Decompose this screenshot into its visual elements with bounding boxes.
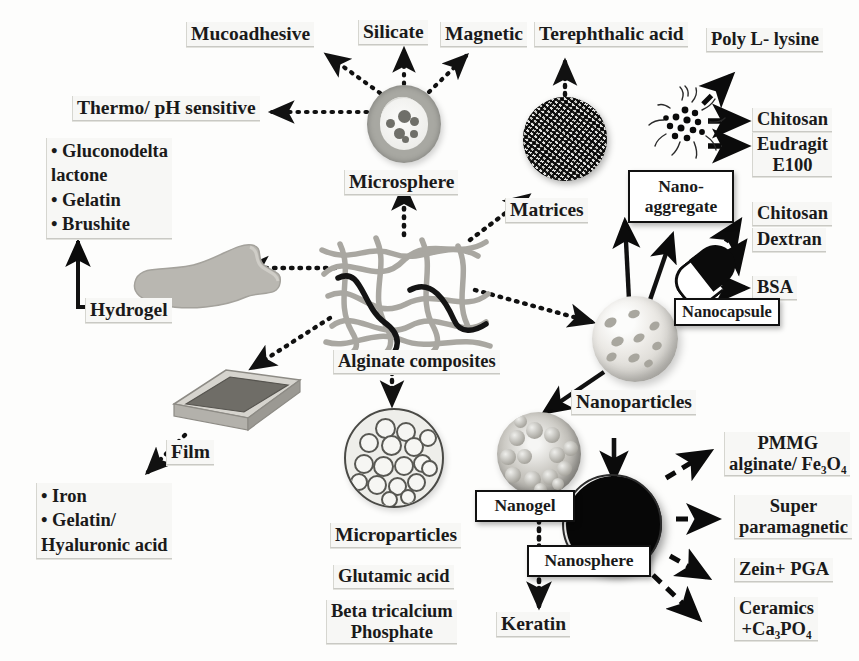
node-label-nano-aggregate: Nano- aggregate (628, 170, 734, 223)
node-label-nanocapsule: Nanocapsule (674, 298, 780, 326)
label-thermo-ph-sensitive: Thermo/ pH sensitive (72, 96, 260, 121)
label-poly-l-lysine: Poly L- lysine (706, 28, 823, 52)
label-bsa: BSA (752, 276, 797, 300)
label-chitosan-top: Chitosan (752, 108, 832, 132)
label-chitosan-mid: Chitosan (752, 202, 832, 226)
label-pmmg-alginate: PMMG alginate/ Fe₃O₄ (724, 432, 850, 476)
polymer-network-hub (318, 230, 494, 362)
film-illustration (170, 360, 304, 438)
label-hydrogel-materials: • Gluconodelta lactone • Gelatin • Brush… (46, 138, 172, 239)
diagram-canvas: Mucoadhesive Silicate Magnetic Thermo/ p… (0, 0, 859, 661)
label-zein-pga: Zein+ PGA (734, 558, 833, 582)
microsphere-core (380, 98, 429, 149)
node-label-film: Film (166, 440, 214, 465)
node-label-hydrogel: Hydrogel (85, 298, 172, 323)
label-eudragit-e100: Eudragit E100 (752, 133, 832, 177)
label-keratin: Keratin (496, 612, 570, 637)
label-dextran: Dextran (752, 228, 826, 252)
label-ceramics: Ceramics +Ca₃PO₄ (734, 597, 818, 641)
node-label-matrices: Matrices (505, 198, 588, 223)
node-label-nanosphere: Nanosphere (527, 545, 651, 577)
label-silicate: Silicate (358, 20, 428, 45)
label-terephthalic-acid: Terephthalic acid (534, 22, 688, 47)
node-label-microparticles: Microparticles (330, 523, 461, 548)
matrices-illustration (523, 97, 607, 181)
microsphere-illustration (367, 85, 441, 163)
label-magnetic: Magnetic (440, 22, 527, 47)
label-glutamic-acid: Glutamic acid (333, 565, 454, 589)
node-label-alginate-composites: Alginate composites (333, 350, 500, 374)
nanoparticles-illustration (592, 296, 678, 382)
label-film-materials: • Iron • Gelatin/ Hyaluronic acid (36, 483, 172, 559)
label-beta-tricalcium-phosphate: Beta tricalcium Phosphate (326, 600, 457, 644)
microparticles-illustration (344, 408, 444, 508)
label-mucoadhesive: Mucoadhesive (186, 22, 314, 47)
label-superparamagnetic: Super paramagnetic (734, 495, 852, 539)
node-label-microsphere: Microsphere (344, 170, 458, 195)
nano-aggregate-illustration (640, 82, 736, 168)
node-label-nanoparticles: Nanoparticles (571, 390, 696, 415)
node-label-nanogel: Nanogel (475, 490, 575, 522)
